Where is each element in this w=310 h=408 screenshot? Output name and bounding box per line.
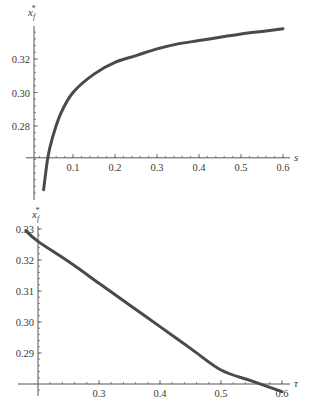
plot-area: 0.10.20.30.40.50.60.280.300.32sxf* — [12, 4, 299, 200]
x-tick-label: 0.4 — [192, 162, 206, 173]
x-axis-label: τ — [294, 377, 299, 389]
x-tick-label: 0.3 — [92, 388, 105, 399]
y-tick-label: 0.30 — [16, 317, 34, 328]
y-tick-label: 0.32 — [16, 255, 34, 266]
plot-area: 0.30.40.50.60.290.300.310.320.33τxf* — [16, 206, 299, 399]
x-tick-label: 0.1 — [66, 162, 79, 173]
y-tick-label: 0.32 — [12, 54, 30, 65]
y-tick-label: 0.30 — [12, 88, 30, 99]
x-tick-label: 0.3 — [150, 162, 163, 173]
x-tick-label: 0.5 — [234, 162, 247, 173]
y-tick-label: 0.31 — [16, 286, 34, 297]
y-tick-label: 0.29 — [16, 348, 34, 359]
x-tick-label: 0.5 — [214, 388, 227, 399]
x-tick-label: 0.4 — [153, 388, 167, 399]
chart-x-f-vs-tau: 0.30.40.50.60.290.300.310.320.33τxf* — [0, 204, 310, 408]
y-axis-label: xf* — [27, 4, 37, 21]
x-tick-label: 0.2 — [108, 162, 121, 173]
y-axis-label: xf* — [31, 206, 41, 223]
chart-x-f-vs-s: 0.10.20.30.40.50.60.280.300.32sxf* — [0, 0, 310, 204]
y-tick-label: 0.28 — [12, 121, 30, 132]
data-curve — [26, 231, 282, 392]
x-axis-label: s — [294, 151, 298, 163]
x-tick-label: 0.6 — [276, 162, 289, 173]
